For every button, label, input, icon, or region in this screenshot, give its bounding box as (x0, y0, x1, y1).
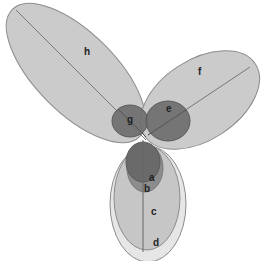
label-g: g (127, 114, 133, 125)
label-b: b (144, 183, 150, 194)
label-a: a (149, 172, 155, 183)
ellipse-diagram: h f g e a b c d (0, 0, 263, 261)
label-h: h (84, 46, 90, 57)
label-c: c (151, 206, 157, 217)
label-e: e (166, 103, 172, 114)
label-d: d (153, 237, 159, 248)
